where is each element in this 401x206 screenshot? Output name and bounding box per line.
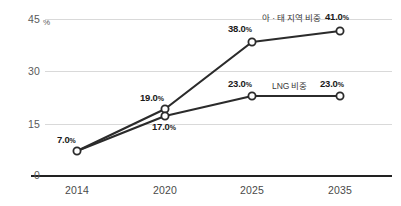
series-line-lng bbox=[77, 96, 340, 151]
value-label-asia-2035-unit: % bbox=[343, 14, 349, 21]
line-chart: 45 % 30 15 0 2014 2020 2025 2035 7.0% 19… bbox=[0, 0, 401, 206]
value-label-asia-2025: 38.0% bbox=[228, 23, 252, 34]
value-label-asia-2025-unit: % bbox=[246, 26, 252, 33]
value-label-lng-2035-number: 23.0 bbox=[320, 78, 338, 89]
value-label-asia-2014: 7.0% bbox=[57, 134, 76, 145]
data-point-lng-2035 bbox=[336, 92, 343, 99]
data-point-asia-2025 bbox=[248, 38, 255, 45]
data-point-lng-2025 bbox=[248, 92, 255, 99]
value-label-lng-2020: 17.0% bbox=[152, 121, 176, 132]
value-label-asia-2020-number: 19.0 bbox=[140, 92, 158, 103]
data-point-lng-2020 bbox=[161, 112, 168, 119]
value-label-asia-2035-number: 41.0 bbox=[325, 11, 343, 22]
legend-label-lng: LNG 비중 bbox=[272, 79, 307, 91]
x-axis-tick-2014: 2014 bbox=[52, 184, 102, 196]
legend-label-asia-pacific: 아 · 태 지역 비중 bbox=[262, 11, 321, 23]
value-label-lng-2025: 23.0% bbox=[228, 78, 252, 89]
value-label-lng-2025-number: 23.0 bbox=[228, 78, 246, 89]
value-label-asia-2020: 19.0% bbox=[140, 92, 164, 103]
value-label-asia-2014-unit: % bbox=[70, 137, 76, 144]
y-axis-tick-15: 15 bbox=[18, 118, 40, 130]
value-label-asia-2025-number: 38.0 bbox=[228, 23, 246, 34]
value-label-lng-2020-unit: % bbox=[170, 124, 176, 131]
y-axis-tick-45: 45 bbox=[18, 13, 40, 25]
y-axis-unit-percent: % bbox=[43, 18, 50, 27]
chart-plot-area bbox=[0, 0, 401, 206]
y-axis-tick-30: 30 bbox=[18, 65, 40, 77]
data-point-asia-2014 bbox=[73, 147, 80, 154]
y-axis-tick-0: 0 bbox=[18, 169, 40, 181]
x-axis-tick-2020: 2020 bbox=[140, 184, 190, 196]
x-axis-tick-2025: 2025 bbox=[227, 184, 277, 196]
value-label-asia-2020-unit: % bbox=[158, 95, 164, 102]
series-line-asia-pacific bbox=[77, 31, 340, 151]
data-point-asia-2035 bbox=[336, 27, 343, 34]
value-label-asia-2014-number: 7.0 bbox=[57, 134, 70, 145]
value-label-lng-2035-unit: % bbox=[338, 81, 344, 88]
value-label-lng-2035: 23.0% bbox=[320, 78, 344, 89]
value-label-lng-2025-unit: % bbox=[246, 81, 252, 88]
value-label-lng-2020-number: 17.0 bbox=[152, 121, 170, 132]
value-label-asia-2035: 41.0% bbox=[325, 11, 349, 22]
x-axis-tick-2035: 2035 bbox=[315, 184, 365, 196]
